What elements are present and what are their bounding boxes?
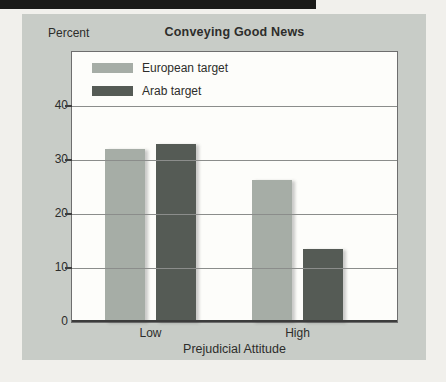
- bar-high-arab: [303, 249, 343, 322]
- y-tick-label-40: 40: [20, 98, 68, 112]
- x-axis-line: [72, 320, 397, 322]
- scanned-figure-page: Percent Conveying Good News European tar…: [0, 0, 446, 382]
- y-tick-label-30: 30: [20, 152, 68, 166]
- x-tick-label-high: High: [258, 326, 338, 340]
- gridline-20: [72, 214, 397, 215]
- legend-label: Arab target: [142, 84, 201, 98]
- gridline-10: [72, 268, 397, 269]
- gridline-30: [72, 160, 397, 161]
- legend-item: Arab target: [92, 81, 228, 101]
- legend-item: European target: [92, 58, 228, 78]
- legend-label: European target: [142, 61, 228, 75]
- y-tick-label-20: 20: [20, 206, 68, 220]
- x-tick-label-low: Low: [111, 326, 191, 340]
- legend-swatch: [92, 63, 133, 73]
- bar-low-arab: [156, 144, 196, 322]
- bar-high-european: [252, 180, 292, 322]
- chart-title: Conveying Good News: [72, 25, 397, 39]
- y-tick-mark-20: [65, 213, 72, 215]
- y-tick-mark-40: [65, 105, 72, 107]
- y-tick-mark-10: [65, 267, 72, 269]
- legend-swatch: [92, 86, 133, 96]
- y-tick-label-10: 10: [20, 260, 68, 274]
- legend: European targetArab target: [92, 58, 228, 104]
- plot-area: European targetArab target: [72, 52, 397, 322]
- x-axis-title: Prejudicial Attitude: [72, 342, 397, 356]
- gridline-40: [72, 106, 397, 107]
- top-black-bar: [0, 0, 316, 9]
- bar-low-european: [105, 149, 145, 322]
- y-tick-mark-30: [65, 159, 72, 161]
- y-tick-label-0: 0: [20, 314, 68, 328]
